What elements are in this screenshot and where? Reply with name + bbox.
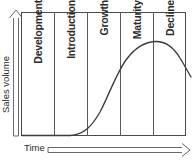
x-axis-label: Time (24, 142, 45, 153)
y-axis-label: Sales volume (0, 56, 12, 134)
stage-divider-1 (54, 12, 55, 136)
stage-divider-4 (153, 12, 154, 136)
stage-divider-3 (120, 12, 121, 136)
stage-divider-2 (87, 12, 88, 136)
x-axis-arrow-icon (48, 144, 190, 157)
plot-frame (21, 12, 186, 136)
y-axis-label-text: Sales volume (0, 56, 12, 113)
product-life-cycle-diagram: Development Introduction Growth Maturity… (0, 0, 195, 163)
